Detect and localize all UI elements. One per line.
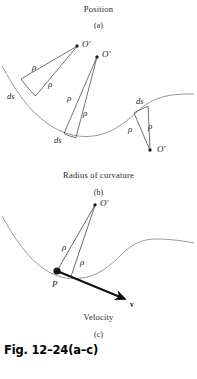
label-ds-1: ds	[7, 92, 15, 101]
figure-container: Position (a) O' O' O' ρ ρ ρ ρ ρ ρ ds ds …	[0, 0, 197, 379]
label-ds-2: ds	[54, 136, 62, 145]
label-ds-3: ds	[136, 97, 144, 106]
label-o-prime-1: O'	[82, 40, 90, 49]
velocity-vector-arrow	[57, 271, 125, 299]
arc-element-ds-1	[21, 79, 36, 96]
panel-a-drawing	[2, 44, 194, 151]
label-rho-3: ρ	[67, 94, 71, 103]
figure-reference: Fig. 12–24(a–c)	[4, 345, 98, 357]
label-rho-1: ρ	[32, 63, 36, 72]
panel-c-letter: (c)	[0, 331, 197, 339]
panel-a-caption: Position	[0, 5, 197, 14]
panel-c-caption: Velocity	[0, 313, 197, 322]
label-rho-5: ρ	[128, 125, 132, 134]
label-rho-4: ρ	[83, 109, 87, 118]
label-rho-2: ρ	[48, 80, 52, 89]
trajectory-curve-a	[2, 66, 194, 137]
label-point-p: P	[52, 280, 58, 289]
label-o-prime-c: O'	[100, 199, 108, 208]
label-o-prime-2: O'	[102, 50, 110, 59]
panel-a-letter: (a)	[0, 22, 197, 30]
label-rho-c1: ρ	[62, 243, 66, 252]
radius-line-a1	[21, 47, 76, 79]
trajectory-curve-c	[2, 216, 194, 279]
panel-b-letter: (b)	[0, 189, 197, 197]
label-o-prime-3: O'	[157, 145, 165, 154]
label-rho-6: ρ	[148, 122, 152, 131]
radius-line-a2	[36, 47, 77, 96]
panel-b-caption: Radius of curvature	[0, 171, 197, 180]
panel-c-drawing	[2, 203, 194, 299]
arc-element-ds-3	[134, 107, 148, 114]
label-rho-c2: ρ	[80, 258, 84, 267]
radius-line-a5	[134, 113, 150, 149]
label-velocity-vector: v	[130, 301, 134, 309]
